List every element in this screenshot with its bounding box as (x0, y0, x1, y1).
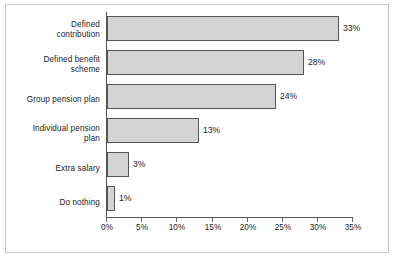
x-tick-25 (282, 218, 283, 222)
category-label-group-pension-plan: Group pension plan (27, 95, 100, 105)
category-label-defined-contribution: Defined contribution (56, 20, 100, 39)
bar-do-nothing (107, 186, 115, 211)
x-tick-label-0: 0% (101, 223, 113, 233)
x-tick-30 (317, 218, 318, 222)
category-label-individual-pension-plan: Individual pension plan (33, 124, 100, 143)
y-axis-line (106, 12, 107, 218)
value-label-group-pension-plan: 24% (280, 91, 297, 101)
x-tick-label-20: 20% (240, 223, 256, 233)
x-tick-5 (141, 218, 142, 222)
value-label-do-nothing: 1% (119, 193, 131, 203)
plot-area: Defined contribution Defined benefit sch… (0, 0, 394, 258)
x-axis-line (106, 217, 353, 218)
bar-extra-salary (107, 152, 129, 177)
x-tick-35 (352, 218, 353, 222)
x-tick-label-10: 10% (169, 223, 185, 233)
x-tick-label-15: 15% (205, 223, 221, 233)
value-label-individual-pension-plan: 13% (203, 125, 220, 135)
value-label-extra-salary: 3% (133, 159, 145, 169)
x-tick-10 (176, 218, 177, 222)
category-label-defined-benefit-scheme: Defined benefit scheme (43, 55, 100, 74)
category-label-extra-salary: Extra salary (56, 164, 100, 174)
x-tick-label-35: 35% (345, 223, 361, 233)
x-tick-15 (212, 218, 213, 222)
x-tick-0 (106, 218, 107, 222)
bar-defined-contribution (107, 16, 339, 41)
x-tick-label-25: 25% (275, 223, 291, 233)
value-label-defined-benefit-scheme: 28% (308, 57, 325, 67)
chart-figure: Defined contribution Defined benefit sch… (0, 0, 394, 258)
bar-defined-benefit-scheme (107, 50, 304, 75)
bar-individual-pension-plan (107, 118, 199, 143)
bar-group-pension-plan (107, 84, 276, 109)
value-label-defined-contribution: 33% (343, 23, 360, 33)
x-tick-label-5: 5% (136, 223, 148, 233)
x-tick-label-30: 30% (310, 223, 326, 233)
x-tick-20 (247, 218, 248, 222)
category-label-do-nothing: Do nothing (59, 198, 100, 208)
